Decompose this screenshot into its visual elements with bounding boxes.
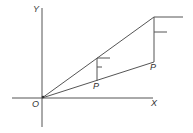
point-p-right-label: P [150,62,156,72]
x-axis-label: X [150,98,158,108]
origin-label: O [32,99,39,109]
y-axis-label: Y [33,4,40,14]
origin-dot [42,96,45,99]
diagram: Y X O P P [0,0,193,133]
point-p-mid-label: P [93,81,99,91]
